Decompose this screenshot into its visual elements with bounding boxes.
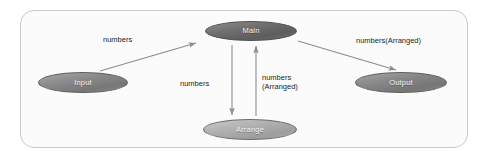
node-main[interactable]: Main (205, 21, 297, 41)
node-input[interactable]: Input (38, 72, 128, 93)
edge-label-input-to-main: numbers (103, 35, 132, 44)
node-output-label: Output (389, 79, 413, 87)
edge-label-main-to-output: numbers(Arranged) (356, 36, 421, 45)
diagram-canvas: Main Input Output Arrange numbers number… (0, 0, 488, 161)
node-output[interactable]: Output (355, 72, 447, 93)
node-arrange-label: Arrange (236, 126, 264, 134)
node-main-label: Main (242, 27, 259, 35)
edge-label-arrange-to-main: numbers (Arranged) (262, 73, 324, 91)
node-arrange[interactable]: Arrange (203, 119, 297, 140)
edge-label-arrange-to-main-line2: (Arranged) (262, 82, 324, 91)
edge-label-arrange-to-main-line1: numbers (262, 73, 324, 82)
edge-label-main-to-arrange: numbers (180, 79, 209, 88)
node-input-label: Input (74, 79, 92, 87)
